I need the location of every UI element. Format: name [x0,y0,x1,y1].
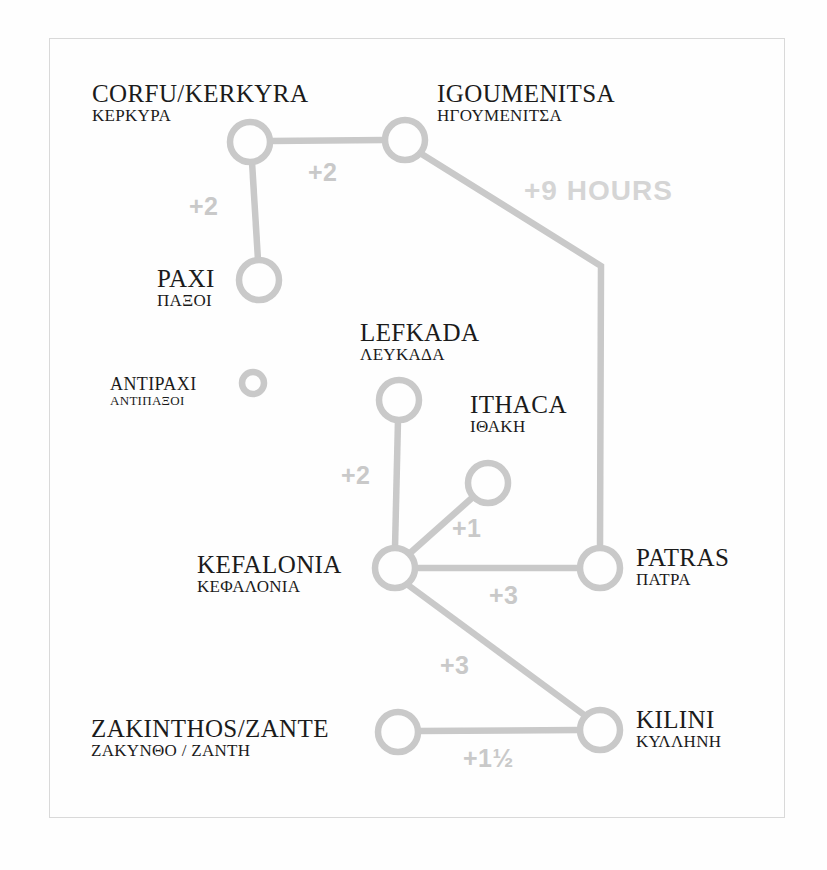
label-kefalonia-en: KEFALONIA [197,552,342,578]
label-paxi-en: PAXI [157,266,215,292]
diagram-canvas: CORFU/KERKYRA ΚΕΡΚΥΡΑ IGOUMENITSA ΗΓΟΥΜΕ… [0,0,827,870]
label-igoumenitsa-en: IGOUMENITSA [437,81,615,107]
duration-kefalonia-kilini: +3 [440,651,470,680]
duration-corfu-paxi: +2 [189,192,219,221]
duration-corfu-igoumenitsa: +2 [308,158,338,187]
label-antipaxi-gr: ΑΝΤΙΠΑΞΟΙ [110,394,197,408]
label-kilini-gr: ΚΥΛΛΗΝΗ [636,733,721,751]
label-kefalonia-gr: ΚΕΦΑΛΟΝΙΑ [197,578,342,596]
duration-kefalonia-patras: +3 [489,581,519,610]
duration-zakinthos-kilini: +1½ [463,744,514,773]
label-antipaxi: ANTIPAXI ΑΝΤΙΠΑΞΟΙ [110,375,197,407]
label-igoumenitsa-gr: ΗΓΟΥΜΕΝΙΤΣΑ [437,107,615,125]
label-zakinthos-en: ZAKINTHOS/ZANTE [91,716,329,742]
label-lefkada: LEFKADA ΛΕΥΚΑΔΑ [360,320,479,364]
label-zakinthos-gr: ΖΑΚΥΝΘΟ / ΖΑΝΤΗ [91,742,329,760]
label-corfu: CORFU/KERKYRA ΚΕΡΚΥΡΑ [92,81,308,125]
duration-lefkada-kefalonia: +2 [341,461,371,490]
diagram-frame [49,38,785,818]
label-corfu-gr: ΚΕΡΚΥΡΑ [92,107,308,125]
label-zakinthos: ZAKINTHOS/ZANTE ΖΑΚΥΝΘΟ / ΖΑΝΤΗ [91,716,329,760]
label-ithaca-en: ITHACA [470,392,567,418]
label-kilini-en: KILINI [636,707,721,733]
label-igoumenitsa: IGOUMENITSA ΗΓΟΥΜΕΝΙΤΣΑ [437,81,615,125]
label-kilini: KILINI ΚΥΛΛΗΝΗ [636,707,721,751]
label-patras-gr: ΠΑΤΡΑ [636,571,729,589]
label-lefkada-gr: ΛΕΥΚΑΔΑ [360,346,479,364]
label-paxi-gr: ΠΑΞΟΙ [157,292,215,310]
duration-igoumenitsa-patras: +9 HOURS [524,175,673,207]
label-paxi: PAXI ΠΑΞΟΙ [157,266,215,310]
label-patras-en: PATRAS [636,545,729,571]
label-ithaca: ITHACA ΙΘΑΚΗ [470,392,567,436]
label-corfu-en: CORFU/KERKYRA [92,81,308,107]
label-kefalonia: KEFALONIA ΚΕΦΑΛΟΝΙΑ [197,552,342,596]
label-lefkada-en: LEFKADA [360,320,479,346]
label-patras: PATRAS ΠΑΤΡΑ [636,545,729,589]
duration-ithaca-kefalonia: +1 [452,514,482,543]
label-antipaxi-en: ANTIPAXI [110,375,197,394]
label-ithaca-gr: ΙΘΑΚΗ [470,418,567,436]
